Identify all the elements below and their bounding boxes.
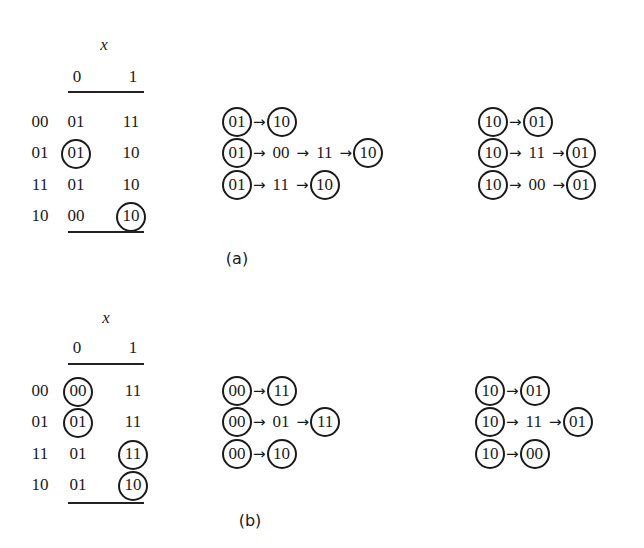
state-label: 11 (32, 175, 48, 195)
column-header-1: 1 (129, 338, 138, 358)
stable-state: 10 (478, 107, 508, 137)
column-header-0: 0 (73, 67, 82, 87)
transition-chain: 10 → 11 → 01 (475, 407, 593, 437)
transition-chain: 01 → 00 → 11 → 10 (222, 138, 383, 168)
arrow-icon: → (297, 407, 310, 437)
table-cell: 10 (123, 143, 140, 163)
stable-state: 10 (478, 170, 508, 200)
stable-state: 10 (353, 138, 383, 168)
table-cell: 00 (68, 206, 85, 226)
arrow-icon: → (549, 407, 562, 437)
stable-state: 01 (520, 376, 550, 406)
stable-state: 11 (310, 407, 340, 437)
transition-chain: 00 → 10 (222, 439, 297, 469)
transition-chain: 10 → 00 (475, 439, 550, 469)
arrow-icon: → (506, 439, 519, 469)
table-cell: 10 (123, 175, 140, 195)
table-cell: 11 (123, 112, 139, 132)
table-cell: 10 (123, 206, 140, 226)
arrow-icon: → (509, 107, 522, 137)
stable-state: 10 (475, 407, 505, 437)
arrow-icon: → (340, 138, 353, 168)
stable-state: 10 (267, 107, 297, 137)
transient-state: 11 (523, 138, 551, 168)
stable-state: 00 (222, 439, 252, 469)
stable-state: 01 (566, 170, 596, 200)
panel-caption: (b) (239, 511, 262, 530)
stable-state: 01 (563, 407, 593, 437)
arrow-icon: → (253, 376, 266, 406)
transition-chain: 10 → 00 → 01 (478, 170, 596, 200)
arrow-icon: → (509, 170, 522, 200)
table-cell: 01 (68, 143, 85, 163)
stable-state: 00 (222, 407, 252, 437)
footer-rule (68, 231, 144, 233)
transition-chain: 10 → 01 (478, 107, 553, 137)
stable-state: 01 (222, 107, 252, 137)
footer-rule (68, 502, 144, 504)
transition-chain: 01 → 10 (222, 107, 297, 137)
arrow-icon: → (253, 138, 266, 168)
arrow-icon: → (296, 170, 309, 200)
stable-state: 10 (478, 138, 508, 168)
table-cell: 00 (70, 381, 87, 401)
stable-state: 10 (310, 170, 340, 200)
transient-state: 01 (267, 407, 296, 437)
transient-state: 00 (523, 170, 552, 200)
table-cell: 01 (70, 412, 87, 432)
arrow-icon: → (552, 138, 565, 168)
state-label: 10 (32, 206, 49, 226)
state-label: 00 (32, 381, 49, 401)
table-cell: 01 (70, 475, 87, 495)
panel-caption: (a) (226, 249, 248, 268)
table-cell: 10 (125, 475, 142, 495)
arrow-icon: → (297, 138, 310, 168)
transient-state: 00 (267, 138, 296, 168)
arrow-icon: → (506, 376, 519, 406)
table-cell: 01 (70, 444, 87, 464)
transition-chain: 00 → 01 → 11 (222, 407, 340, 437)
state-label: 00 (32, 112, 49, 132)
arrow-icon: → (553, 170, 566, 200)
arrow-icon: → (253, 407, 266, 437)
table-cell: 01 (68, 175, 85, 195)
stable-state: 10 (267, 439, 297, 469)
transient-state: 11 (267, 170, 295, 200)
stable-state: 10 (475, 439, 505, 469)
state-label: 10 (32, 475, 49, 495)
stable-state: 00 (520, 439, 550, 469)
column-header-1: 1 (129, 67, 138, 87)
transient-state: 11 (310, 138, 338, 168)
header-rule (68, 91, 144, 93)
transition-chain: 01 → 11 → 10 (222, 170, 340, 200)
column-header-0: 0 (73, 338, 82, 358)
stable-state: 01 (566, 138, 596, 168)
arrow-icon: → (253, 107, 266, 137)
transient-state: 11 (520, 407, 548, 437)
state-label: 01 (32, 143, 49, 163)
arrow-icon: → (506, 407, 519, 437)
input-label: x (102, 308, 110, 328)
table-cell: 11 (125, 444, 141, 464)
input-label: x (100, 35, 108, 55)
table-cell: 11 (125, 381, 141, 401)
table-cell: 01 (68, 112, 85, 132)
stable-state: 01 (222, 138, 252, 168)
stable-state: 11 (267, 376, 297, 406)
table-cell: 11 (125, 412, 141, 432)
transition-chain: 00 → 11 (222, 376, 297, 406)
arrow-icon: → (253, 439, 266, 469)
transition-chain: 10 → 01 (475, 376, 550, 406)
stable-state: 01 (222, 170, 252, 200)
transition-chain: 10 → 11 → 01 (478, 138, 596, 168)
stable-state: 10 (475, 376, 505, 406)
state-label: 01 (32, 412, 49, 432)
stable-state: 01 (523, 107, 553, 137)
arrow-icon: → (253, 170, 266, 200)
state-label: 11 (32, 444, 48, 464)
header-rule (68, 363, 144, 365)
stable-state: 00 (222, 376, 252, 406)
arrow-icon: → (509, 138, 522, 168)
